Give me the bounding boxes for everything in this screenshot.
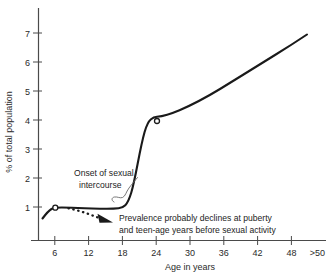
x-tick-label-24: 24: [151, 248, 161, 258]
y-tick-label-7: 7: [25, 29, 30, 39]
open-circle-marker-age-24: [155, 119, 160, 124]
x-axis-title: Age in years: [165, 262, 216, 272]
x-tick-label-12: 12: [84, 248, 94, 258]
x-tick-label-36: 36: [219, 248, 229, 258]
y-axis-title: % of total population: [4, 91, 14, 173]
decline-annotation-line-1: Prevalence probably declines at puberty: [119, 213, 273, 223]
open-circle-marker-age-6: [53, 205, 58, 210]
x-tick-label-18: 18: [117, 248, 127, 258]
y-tick-label-3: 3: [25, 145, 30, 155]
x-tick-label-6: 6: [52, 248, 57, 258]
onset-annotation-line-2: intercourse: [79, 180, 122, 190]
y-tick-label-2: 2: [25, 174, 30, 184]
y-tick-label-5: 5: [25, 87, 30, 97]
y-tick-label-4: 4: [25, 116, 30, 126]
y-tick-label-6: 6: [25, 58, 30, 68]
x-tick-label-42: 42: [253, 248, 263, 258]
chart-svg: 7 6 5 4 3 2 1 6 12 18 24 30 36 42: [0, 0, 331, 276]
onset-annotation-line-1: Onset of sexual: [74, 168, 134, 178]
x-tick-label-30: 30: [185, 248, 195, 258]
x-tick-label-48: 48: [286, 248, 296, 258]
y-tick-label-1: 1: [25, 203, 30, 213]
x-tick-label-over-50: >50: [310, 248, 325, 258]
decline-annotation-line-2: and teen-age years before sexual activit…: [119, 225, 276, 235]
prevalence-by-age-chart: 7 6 5 4 3 2 1 6 12 18 24 30 36 42: [0, 0, 331, 276]
